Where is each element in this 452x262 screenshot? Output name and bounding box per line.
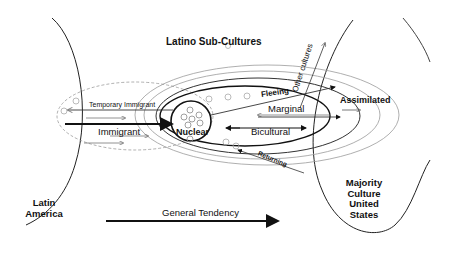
temporary-immigrant-label: Temporary Immigrant: [89, 101, 155, 108]
latin-america-label: Latin America: [24, 197, 64, 219]
nuclear-label: Nuclear: [176, 128, 209, 137]
us-line3: United: [339, 199, 389, 210]
united-states-boundary-top-right: [403, 18, 430, 62]
general-tendency-label: General Tendency: [162, 208, 239, 218]
latin-america-boundary: [26, 18, 82, 225]
assimilated-label: Assimilated: [340, 96, 391, 105]
marginal-label: Marginal: [268, 104, 304, 114]
latin-america-line2: America: [24, 208, 64, 219]
united-states-label: Majority Culture United States: [339, 178, 389, 220]
bicultural-label: Bicultural: [251, 127, 290, 137]
us-line1: Majority: [339, 178, 389, 189]
immigrant-label: Immigrant: [98, 127, 140, 137]
latin-america-line1: Latin: [24, 197, 64, 208]
diagram-title: Latino Sub-Cultures: [166, 37, 262, 47]
us-line4: States: [339, 210, 389, 221]
